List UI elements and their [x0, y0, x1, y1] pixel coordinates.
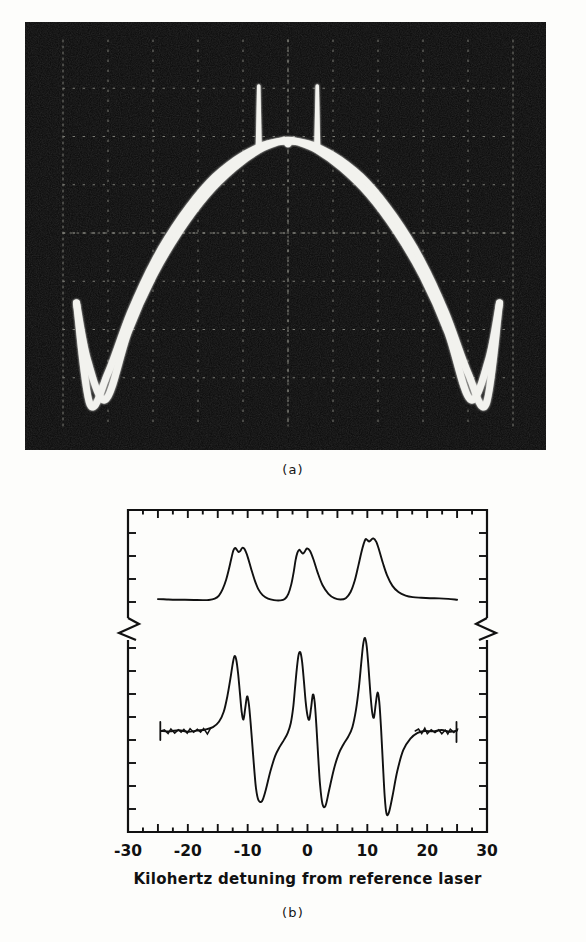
axis-break-right-icon — [476, 618, 496, 640]
x-axis-tick-label: -10 — [234, 842, 262, 860]
x-axis-labels: -30-20-100102030 — [114, 842, 498, 860]
x-axis-tick-label: -30 — [114, 842, 142, 860]
plot-frame — [119, 510, 496, 832]
x-axis-tick-label: 30 — [476, 842, 498, 860]
panel-a-caption: (a) — [0, 462, 586, 477]
figure-root: (a) -30-20-100102030Kilohertz detuning f… — [0, 0, 586, 942]
scope-trace-narrow-spike-right — [316, 86, 319, 149]
plot-frame-upper — [128, 510, 487, 618]
scope-trace-narrow-spike-left — [257, 86, 260, 149]
panel-b-caption: (b) — [0, 905, 586, 920]
x-axis-title: Kilohertz detuning from reference laser — [133, 870, 481, 888]
plot-frame-lower — [128, 640, 487, 832]
spectra-plot-panel: -30-20-100102030Kilohertz detuning from … — [100, 495, 520, 895]
axis-break-left-icon — [119, 618, 139, 640]
derivative-baseline-noise — [160, 722, 457, 742]
oscilloscope-trace-graphic — [25, 22, 546, 450]
x-axis-tick-label: 10 — [357, 842, 379, 860]
trace-absorption-upper — [158, 538, 457, 600]
spectra-plot-graphic: -30-20-100102030Kilohertz detuning from … — [100, 495, 520, 895]
trace-derivative-lower — [161, 638, 457, 815]
x-axis-tick-label: -20 — [174, 842, 202, 860]
plot-ticks — [128, 510, 487, 832]
oscilloscope-panel — [25, 22, 546, 450]
x-axis-tick-label: 20 — [416, 842, 438, 860]
plot-traces — [158, 538, 457, 815]
x-axis-tick-label: 0 — [302, 842, 313, 860]
